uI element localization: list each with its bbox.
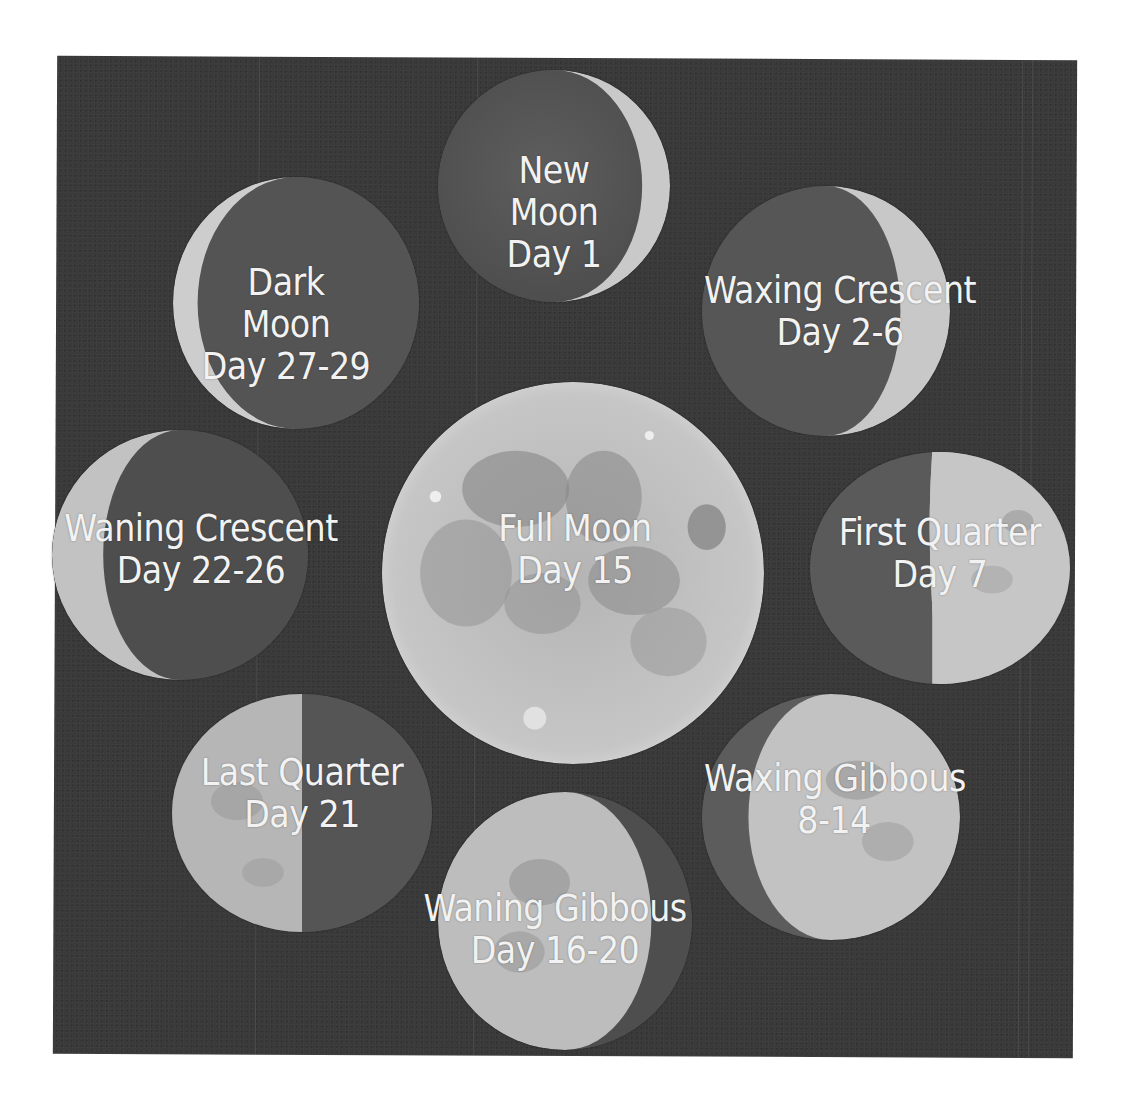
full-moon-label: Full Moon Day 15 [470, 508, 680, 592]
waning-crescent-label: Waning Crescent Day 22-26 [56, 508, 346, 592]
last-quarter-label: Last Quarter Day 21 [196, 752, 408, 836]
waning-gibbous-label: Waning Gibbous Day 16-20 [420, 888, 690, 972]
first-quarter-label: First Quarter Day 7 [830, 512, 1050, 596]
waxing-gibbous-label: Waxing Gibbous 8-14 [704, 758, 964, 842]
waxing-crescent-label: Waxing Crescent Day 2-6 [700, 270, 980, 354]
new-moon-label: New Moon Day 1 [494, 150, 614, 275]
dark-moon-label: Dark Moon Day 27-29 [196, 262, 376, 387]
